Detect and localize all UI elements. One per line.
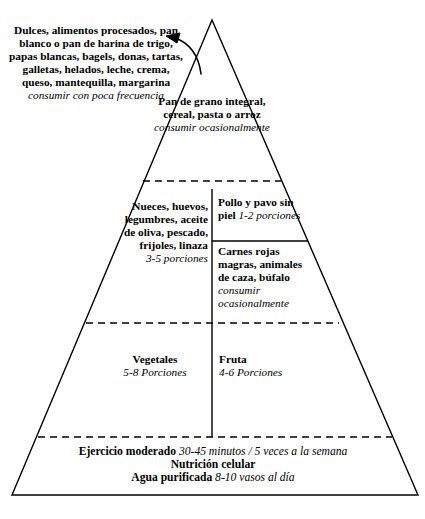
- base-water-note: 8-10 vasos al día: [215, 471, 295, 484]
- tier-nuts-label: Nueces, huevos, legumbres, aceite de oli…: [124, 200, 208, 251]
- base-nutrition-row: Nutrición celular: [28, 458, 398, 471]
- tier-poultry-note: 1-2 porciones: [238, 209, 300, 221]
- tier-fruit-label: Fruta: [219, 353, 247, 365]
- tier-poultry: Pollo y pavo sin piel 1-2 porciones: [218, 196, 310, 222]
- tier-nuts-note: 3-5 porciones: [112, 252, 208, 265]
- base-exercise-note: 30-45 minutos / 5 veces a la semana: [179, 445, 347, 458]
- base-water-row: Agua purificada 8-10 vasos al día: [28, 471, 398, 484]
- tier-red-meat-note: consumir ocasionalmente: [218, 284, 314, 310]
- tier-fruit-note: 4-6 Porciones: [219, 366, 329, 379]
- tier-grains-label: Pan de grano integral, cereal, pasta o a…: [158, 95, 265, 120]
- tier-red-meat-label: Carnes rojas magras, animales de caza, b…: [218, 245, 302, 283]
- callout-sweets-label: Dulces, alimentos procesados, pan blanco…: [9, 24, 183, 88]
- base-exercise-row: Ejercicio moderado 30-45 minutos / 5 vec…: [28, 445, 398, 458]
- base-water-label: Agua purificada: [131, 471, 215, 484]
- tier-red-meat: Carnes rojas magras, animales de caza, b…: [218, 245, 314, 309]
- base-exercise-label: Ejercicio moderado: [79, 445, 179, 458]
- tier-fruit: Fruta 4-6 Porciones: [219, 353, 329, 379]
- tier-grains-note: consumir ocasionalmente: [152, 121, 272, 134]
- tier-nuts: Nueces, huevos, legumbres, aceite de oli…: [112, 200, 208, 264]
- tier-vegetables-note: 5-8 Porciones: [104, 366, 206, 379]
- base-nutrition-label: Nutrición celular: [171, 458, 256, 471]
- tier-vegetables-label: Vegetales: [133, 353, 178, 365]
- callout-sweets: Dulces, alimentos procesados, pan blanco…: [6, 24, 186, 102]
- tier-grains: Pan de grano integral, cereal, pasta o a…: [152, 95, 272, 134]
- food-pyramid-diagram: Dulces, alimentos procesados, pan blanco…: [0, 0, 425, 519]
- tier-vegetables: Vegetales 5-8 Porciones: [104, 353, 206, 379]
- tier-base-foundation: Ejercicio moderado 30-45 minutos / 5 vec…: [28, 445, 398, 485]
